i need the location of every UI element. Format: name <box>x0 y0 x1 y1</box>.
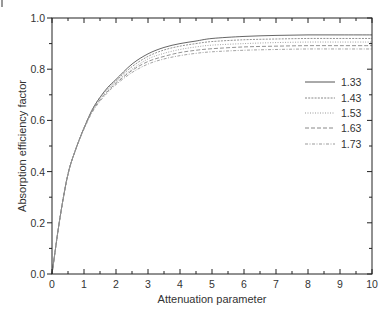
series-line-1-43 <box>52 38 372 274</box>
x-tick-label: 0 <box>49 278 55 290</box>
x-tick-label: 3 <box>145 278 151 290</box>
y-tick-label: 0.0 <box>30 268 45 280</box>
legend-label: 1.53 <box>341 107 362 119</box>
y-axis-title: Absorption efficiency factor <box>16 80 28 212</box>
x-tick-label: 7 <box>273 278 279 290</box>
x-tick-label: 6 <box>241 278 247 290</box>
plot-frame <box>52 18 372 274</box>
legend-label: 1.73 <box>341 138 362 150</box>
legend-item: 1.63 <box>305 122 362 134</box>
x-tick-label: 9 <box>337 278 343 290</box>
x-tick-label: 1 <box>81 278 87 290</box>
y-tick-label: 0.4 <box>30 166 45 178</box>
legend-label: 1.63 <box>341 122 362 134</box>
series-line-1-63 <box>52 46 372 274</box>
y-tick-label: 0.2 <box>30 217 45 229</box>
legend-label: 1.33 <box>341 76 362 88</box>
series-lines <box>52 35 372 274</box>
series-line-1-73 <box>52 49 372 274</box>
legend-item: 1.33 <box>305 76 362 88</box>
legend-item: 1.73 <box>305 138 362 150</box>
x-tick-label: 10 <box>366 278 378 290</box>
legend-item: 1.53 <box>305 107 362 119</box>
x-tick-label: 4 <box>177 278 183 290</box>
y-tick-label: 0.6 <box>30 114 45 126</box>
x-axis: 012345678910 <box>49 18 378 290</box>
x-axis-title: Attenuation parameter <box>158 293 267 305</box>
y-tick-label: 0.8 <box>30 63 45 75</box>
legend-label: 1.43 <box>341 92 362 104</box>
x-tick-label: 8 <box>305 278 311 290</box>
x-tick-label: 2 <box>113 278 119 290</box>
legend: 1.331.431.531.631.73 <box>305 76 362 150</box>
series-line-1-53 <box>52 42 372 274</box>
line-chart: 012345678910 0.00.20.40.60.81.0 Attenuat… <box>0 0 389 318</box>
y-axis: 0.00.20.40.60.81.0 <box>30 12 372 280</box>
series-line-1-33 <box>52 35 372 274</box>
y-tick-label: 1.0 <box>30 12 45 24</box>
x-tick-label: 5 <box>209 278 215 290</box>
legend-item: 1.43 <box>305 92 362 104</box>
